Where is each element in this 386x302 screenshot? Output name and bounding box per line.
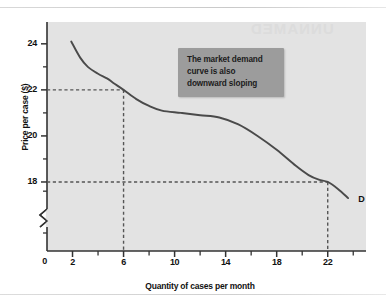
callout-box: The market demand curve is also downward… — [178, 48, 284, 97]
x-tick-label: 10 — [165, 257, 185, 267]
callout-line-3: downward sloping — [187, 78, 276, 90]
callout-line-2: curve is also — [187, 66, 276, 78]
y-tick-label: 22 — [15, 84, 37, 94]
y-axis-title: Price per case ($) — [20, 57, 30, 177]
x-axis-title: Quantity of cases per month — [60, 281, 340, 291]
x-tick-label: 14 — [216, 257, 236, 267]
x-tick-label: 18 — [267, 257, 287, 267]
y-tick-label: 20 — [15, 130, 37, 140]
x-tick-label: 6 — [114, 257, 134, 267]
callout-line-1: The market demand — [187, 54, 276, 66]
x-tick-label: 2 — [63, 257, 83, 267]
demand-curve-figure: UNNAMED Price per case ($) Quantity of c… — [0, 0, 386, 302]
curve-label-d: D — [358, 194, 365, 204]
y-tick-label: 24 — [15, 38, 37, 48]
y-tick-label: 18 — [15, 176, 37, 186]
x-tick-label: 22 — [318, 257, 338, 267]
origin-label: 0 — [25, 256, 47, 266]
